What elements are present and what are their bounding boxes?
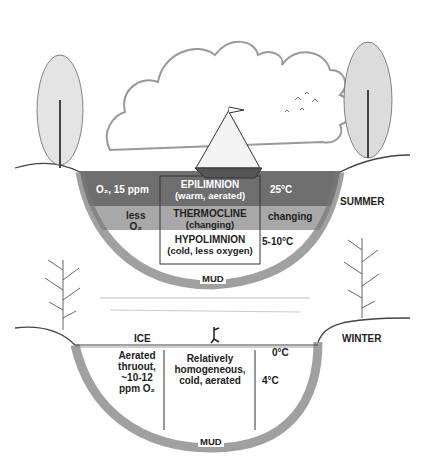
thermocline-desc: (changing) <box>170 219 250 230</box>
summer-mud-label: MUD <box>200 273 226 284</box>
winter-left-line: thruout, <box>112 361 162 372</box>
winter-center-line: Relatively <box>170 353 250 364</box>
winter-left-text: Aerated thruout, ~10-12 ppm O₂ <box>112 350 162 394</box>
hypolimnion-label: HYPOLIMNION (cold, less oxygen) <box>166 234 254 256</box>
winter-center-line: cold, aerated <box>170 375 250 386</box>
thermocline-oxygen-line2: O₂ <box>126 221 145 232</box>
skater-icon <box>211 327 219 343</box>
thermocline-oxygen: less O₂ <box>126 210 145 232</box>
epilimnion-oxygen: O₂, 15 ppm <box>96 184 149 195</box>
epilimnion-temp: 25°C <box>270 184 292 195</box>
thermocline-name: THERMOCLINE <box>170 208 250 219</box>
hypolimnion-desc: (cold, less oxygen) <box>166 245 254 256</box>
winter-left-line: ppm O₂ <box>112 383 162 394</box>
epilimnion-label: EPILIMNION (warm, aerated) <box>170 179 250 201</box>
epilimnion-desc: (warm, aerated) <box>170 190 250 201</box>
summer-season-label: SUMMER <box>340 196 384 207</box>
thermocline-temp: changing <box>268 211 312 222</box>
hypolimnion-name: HYPOLIMNION <box>166 234 254 245</box>
winter-right-temp: 4°C <box>262 375 279 386</box>
winter-left-line: ~10-12 <box>112 372 162 383</box>
winter-mud-label: MUD <box>198 436 224 447</box>
winter-center-line: homogeneous, <box>170 364 250 375</box>
winter-left-line: Aerated <box>112 350 162 361</box>
hypolimnion-temp: 5-10°C <box>262 236 293 247</box>
thermocline-oxygen-line1: less <box>126 210 145 221</box>
epilimnion-name: EPILIMNION <box>170 179 250 190</box>
winter-center-text: Relatively homogeneous, cold, aerated <box>170 353 250 386</box>
surface-temp: 0°C <box>272 347 289 358</box>
ice-label: ICE <box>134 333 151 344</box>
thermocline-label: THERMOCLINE (changing) <box>170 208 250 230</box>
winter-season-label: WINTER <box>342 333 381 344</box>
